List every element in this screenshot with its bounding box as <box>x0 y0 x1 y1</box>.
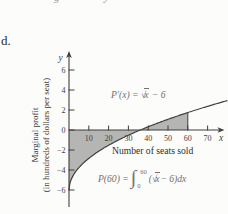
y-axis-title-line2: (in hundreds of dollars per seat) <box>41 78 52 193</box>
curve-formula: P′(x) = √x − 6 <box>111 89 166 100</box>
x-tick-label: 20 <box>105 134 113 143</box>
x-tick-label: 60 <box>184 134 192 143</box>
y-tick-label: −2 <box>57 146 66 155</box>
y-tick-label: 6 <box>62 66 66 75</box>
x-tick-label: 40 <box>144 134 152 143</box>
y-axis-title: Marginal profit (in hundreds of dollars … <box>30 78 52 193</box>
integral-lower-limit: 0 <box>137 182 147 189</box>
y-tick-label: −6 <box>57 186 66 195</box>
x-axis-letter: x <box>218 133 224 143</box>
integral-differential: dx <box>177 173 186 184</box>
integral-limits: 60 0 <box>137 168 147 189</box>
x-tick-label: 10 <box>85 134 93 143</box>
integral-figure: g y d. 102030405060706420−2−4−6xy Margin… <box>0 0 228 214</box>
y-tick-label: −4 <box>57 166 66 175</box>
y-tick-label: 2 <box>62 106 66 115</box>
x-tick-label: 50 <box>164 134 172 143</box>
y-tick-label: 4 <box>62 86 66 95</box>
curve-formula-prefix: P′(x) = <box>111 89 141 100</box>
integral-body-mid: − 6 <box>160 173 174 184</box>
integral-upper-limit: 60 <box>140 168 147 175</box>
curve-formula-suffix: − 6 <box>149 89 165 100</box>
y-axis-letter: y <box>58 53 64 63</box>
integral-sign: ∫ <box>131 166 136 188</box>
x-axis-title: Number of seats sold <box>112 145 193 156</box>
integral-formula: P(60) = ∫ 60 0 (√x − 6) dx <box>98 165 186 191</box>
x-tick-label: 70 <box>204 134 212 143</box>
integral-prefix: P(60) = <box>98 173 129 184</box>
y-tick-label: 0 <box>62 126 66 135</box>
y-axis-title-line1: Marginal profit <box>30 78 41 193</box>
